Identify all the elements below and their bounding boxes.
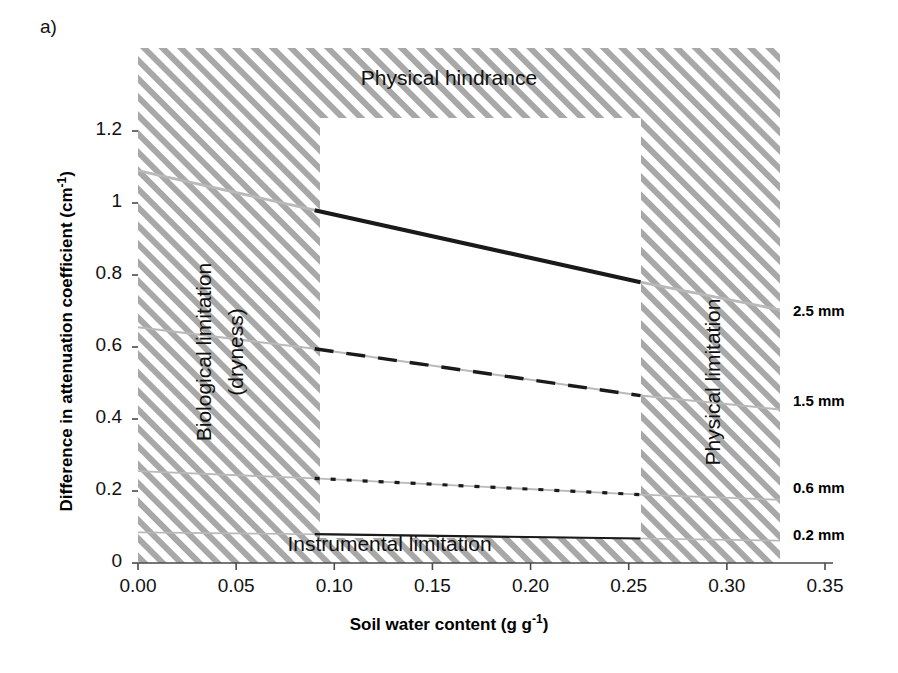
annotation-physical-limitation: Physical limitation	[701, 232, 725, 532]
y-axis-title-main: Difference in attenuation coefficient (c…	[57, 188, 76, 512]
x-tick-label: 0.15	[387, 575, 477, 597]
series-label-0-2-mm: 0.2 mm	[793, 526, 845, 543]
x-tick-label: 0.25	[584, 575, 674, 597]
y-axis-title: Difference in attenuation coefficient (c…	[55, 61, 78, 621]
y-axis-title-exponent: -1	[55, 177, 69, 188]
annotation-instrumental-limitation: Instrumental limitation	[138, 532, 641, 556]
x-tick-label: 0.30	[682, 575, 772, 597]
annotation-physical-hindrance: Physical hindrance	[0, 66, 898, 90]
y-axis-title-tail: )	[57, 171, 76, 177]
y-tick-marks	[132, 131, 138, 563]
valid-window	[320, 118, 641, 538]
x-tick-label: 0.20	[486, 575, 576, 597]
chart-canvas	[0, 0, 898, 673]
figure-panel: a) 00.20.40.60.811.2	[0, 0, 898, 673]
x-axis-title-exponent: -1	[532, 612, 543, 626]
x-axis-title: Soil water content (g g-1)	[0, 612, 898, 635]
series-label-0-6-mm: 0.6 mm	[793, 479, 845, 496]
annotation-biological-limitation-sub: (dryness)	[224, 202, 248, 502]
annotation-biological-limitation: Biological limitation	[192, 202, 216, 502]
x-tick-label: 0.35	[780, 575, 870, 597]
x-axis-title-main: Soil water content (g g	[350, 615, 532, 634]
x-axis-title-tail: )	[543, 615, 549, 634]
x-tick-label: 0.05	[191, 575, 281, 597]
x-tick-marks	[138, 563, 825, 570]
x-tick-label: 0.00	[93, 575, 183, 597]
x-tick-label: 0.10	[289, 575, 379, 597]
series-label-1-5-mm: 1.5 mm	[793, 392, 845, 409]
series-label-2-5-mm: 2.5 mm	[793, 302, 845, 319]
